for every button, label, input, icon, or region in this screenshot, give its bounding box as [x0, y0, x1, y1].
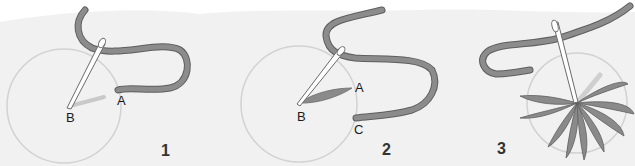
- point-label-c: C: [354, 123, 363, 136]
- paper-background: [0, 10, 635, 166]
- step-number: 3: [497, 141, 506, 157]
- diagram-artwork: [0, 0, 635, 166]
- step-number: 2: [382, 142, 391, 158]
- point-label-a: A: [355, 81, 364, 94]
- point-label-b: B: [66, 111, 75, 124]
- point-label-a: A: [117, 94, 126, 107]
- step-number: 1: [161, 143, 170, 159]
- point-label-b: B: [297, 110, 306, 123]
- stitch-diagram: B A 1 A B C 2 3: [0, 0, 635, 166]
